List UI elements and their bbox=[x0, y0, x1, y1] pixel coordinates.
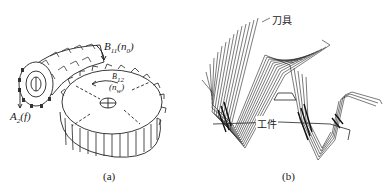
tool-label: 刀具 bbox=[272, 12, 292, 27]
gear-speed-label: (nw) bbox=[109, 82, 124, 95]
envelope-tool-profiles bbox=[202, 18, 382, 160]
caption-a: (a) bbox=[103, 170, 115, 182]
workpiece-tooth bbox=[274, 93, 296, 100]
hob-rotation-label: B11(n0) bbox=[104, 40, 134, 55]
tool-leader bbox=[262, 18, 270, 22]
feed-label: A2(f) bbox=[10, 110, 31, 125]
workpiece-label: 工件 bbox=[256, 116, 278, 131]
figure-canvas bbox=[0, 0, 390, 192]
caption-b: (b) bbox=[282, 170, 295, 182]
